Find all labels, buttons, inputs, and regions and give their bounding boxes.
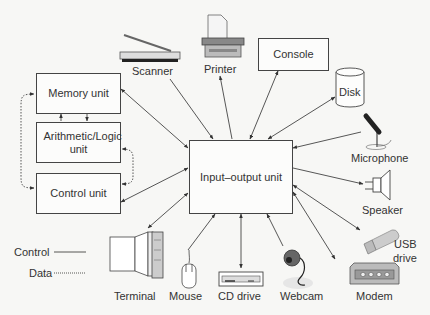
microphone-label: Microphone	[351, 152, 408, 164]
io-unit-label: Input–output unit	[200, 171, 282, 184]
link-control-io	[121, 168, 188, 202]
microphone-icon	[366, 116, 391, 150]
link-webcam-io	[267, 214, 283, 246]
webcam-icon	[283, 250, 313, 289]
cd-drive-label: CD drive	[218, 290, 261, 302]
io-unit-box: Input–output unit	[189, 140, 293, 214]
usb-label-line2: drive	[393, 252, 417, 264]
printer-label: Printer	[204, 63, 236, 75]
link-console-io	[250, 71, 278, 139]
legend-control-label: Control	[14, 246, 49, 258]
link-terminal-io	[148, 193, 188, 228]
disk-label: Disk	[339, 86, 360, 98]
data-link-control-memory	[21, 94, 34, 188]
console-box: Console	[258, 38, 329, 71]
scanner-label: Scanner	[132, 65, 173, 77]
link-mouse-io	[188, 214, 215, 250]
control-unit-box: Control unit	[36, 173, 121, 214]
legend-data-label: Data	[29, 267, 52, 279]
scanner-icon	[120, 35, 180, 62]
control-unit-label: Control unit	[50, 187, 106, 200]
data-link-control-alu	[122, 149, 133, 184]
alu-box: Arithmetic/Logic unit	[36, 122, 121, 163]
terminal-label: Terminal	[114, 290, 156, 302]
usb-label-line1: USB	[394, 238, 417, 250]
memory-unit-box: Memory unit	[36, 73, 121, 114]
link-io-speaker	[293, 168, 363, 184]
modem-label: Modem	[356, 290, 393, 302]
speaker-label: Speaker	[362, 204, 403, 216]
link-memory-io	[121, 89, 188, 148]
console-label: Console	[273, 48, 313, 61]
link-io-printer	[220, 76, 232, 139]
printer-icon	[202, 15, 244, 57]
mouse-label: Mouse	[169, 290, 202, 302]
link-modem-io	[293, 192, 335, 259]
webcam-label: Webcam	[280, 290, 323, 302]
speaker-icon	[365, 170, 390, 200]
modem-icon	[350, 263, 399, 284]
link-scanner-io	[170, 79, 213, 139]
alu-label: Arithmetic/Logic unit	[44, 130, 114, 156]
mouse-icon	[182, 250, 196, 288]
link-disk-io	[268, 97, 335, 139]
terminal-icon	[110, 232, 163, 278]
link-microphone-io	[293, 132, 361, 148]
memory-unit-label: Memory unit	[48, 87, 109, 100]
cd-drive-icon	[219, 272, 263, 286]
